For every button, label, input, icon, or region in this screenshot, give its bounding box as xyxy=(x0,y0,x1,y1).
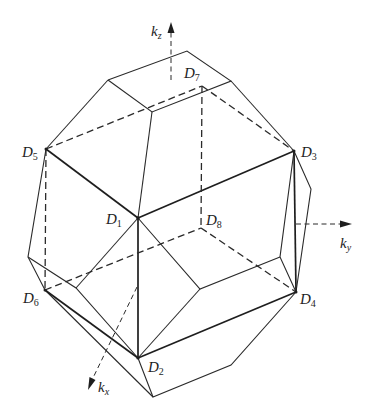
edge-D2-D4 xyxy=(138,292,296,358)
kx-label: kx xyxy=(98,379,110,397)
label-D7: D7 xyxy=(183,65,200,83)
left-outer-edge xyxy=(28,149,46,290)
bottom-face-edge xyxy=(138,292,296,397)
vertex-D3-dot xyxy=(293,150,296,153)
kx-arrowhead-icon xyxy=(88,377,96,390)
axis-ky xyxy=(296,221,352,228)
edge-D6-D2 xyxy=(45,290,138,358)
front-lower-face xyxy=(138,218,280,289)
label-D4: D4 xyxy=(299,291,316,309)
front-upper-edge xyxy=(138,112,152,218)
edge-D5-D1 xyxy=(46,149,138,218)
label-D1: D1 xyxy=(105,211,122,229)
kz-arrowhead-icon xyxy=(168,22,175,33)
left-front-edge xyxy=(76,218,138,288)
vertex-D4-dot xyxy=(295,291,298,294)
top-face xyxy=(108,51,231,112)
label-D8: D8 xyxy=(205,212,222,230)
edge-D1-D3 xyxy=(138,151,294,218)
upper-left-edge xyxy=(46,80,108,149)
ky-arrowhead-icon xyxy=(340,221,352,228)
axis-kz xyxy=(168,22,175,80)
vertex-D2-dot xyxy=(136,356,139,359)
front-lower-diagonal xyxy=(138,289,200,358)
edge-D3-D4 xyxy=(294,151,296,292)
edge-D5-D7 xyxy=(46,86,202,149)
label-D3: D3 xyxy=(300,144,317,162)
diagram-canvas: kz ky kx D1 D2 D3 D4 D5 D6 D7 D8 xyxy=(0,0,373,417)
cube-hidden-edges xyxy=(45,86,296,292)
label-D5: D5 xyxy=(21,144,38,162)
kz-label: kz xyxy=(151,23,162,41)
label-D6: D6 xyxy=(22,290,39,308)
brillouin-zone-diagram: kz ky kx D1 D2 D3 D4 D5 D6 D7 D8 xyxy=(0,0,373,417)
vertex-markers xyxy=(44,148,298,360)
edge-D6-D8 xyxy=(45,228,201,290)
vertex-D5-dot xyxy=(45,148,48,151)
kx-axis-line xyxy=(92,287,137,380)
edge-D7-D3 xyxy=(202,86,294,151)
vertex-D6-dot xyxy=(44,289,47,292)
vertex-D1-dot xyxy=(136,216,140,220)
edge-D7-D8 xyxy=(201,86,202,228)
label-D2: D2 xyxy=(147,359,164,377)
ky-label: ky xyxy=(340,235,352,253)
upper-right-edge xyxy=(231,81,294,151)
